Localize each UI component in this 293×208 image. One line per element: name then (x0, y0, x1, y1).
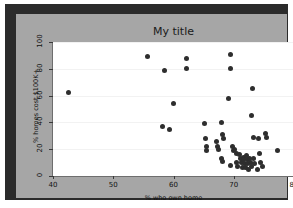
chart-title: My title (53, 25, 293, 39)
y-tick-mark (49, 149, 53, 150)
scatter-point (184, 66, 189, 71)
gridline (53, 42, 293, 43)
y-tick-mark (49, 96, 53, 97)
x-tick-label: 50 (103, 181, 123, 189)
scatter-point (145, 54, 150, 59)
scatter-point (251, 156, 256, 161)
x-tick-mark (113, 176, 114, 179)
y-tick-mark (49, 122, 53, 123)
x-tick-mark (53, 176, 54, 179)
scatter-point (250, 86, 255, 91)
scatter-point (264, 135, 269, 140)
scatter-point (228, 163, 233, 168)
scatter-point (184, 56, 189, 61)
scatter-point (275, 148, 280, 153)
x-tick-mark (234, 176, 235, 179)
scatter-point (228, 66, 233, 71)
scatter-point (171, 101, 176, 106)
y-tick-mark (49, 176, 53, 177)
gridline (53, 149, 293, 150)
y-tick-mark (49, 69, 53, 70)
plot-area (53, 42, 293, 176)
scatter-point (214, 139, 219, 144)
x-tick-label: 80 (284, 181, 293, 189)
figure-canvas: My title 4050607080 020406080100 % who o… (16, 14, 287, 198)
scatter-point (260, 164, 265, 169)
scatter-point (221, 136, 226, 141)
scatter-point (220, 159, 225, 164)
scatter-point (255, 167, 260, 172)
x-tick-mark (174, 176, 175, 179)
screenshot-root: My title 4050607080 020406080100 % who o… (0, 0, 293, 208)
scatter-point (228, 52, 233, 57)
scatter-point (256, 136, 261, 141)
scatter-point (251, 135, 256, 140)
x-axis-label: % who own home (53, 194, 293, 202)
scatter-point (203, 136, 208, 141)
scatter-point (219, 120, 224, 125)
scatter-point (204, 148, 209, 153)
scatter-point (202, 121, 207, 126)
y-tick-mark (49, 42, 53, 43)
scatter-point (249, 113, 254, 118)
scatter-point (216, 147, 221, 152)
gridline (53, 122, 293, 123)
scatter-point (226, 96, 231, 101)
scatter-point (257, 151, 262, 156)
scatter-point (252, 161, 257, 166)
x-tick-label: 60 (164, 181, 184, 189)
x-tick-label: 40 (43, 181, 63, 189)
figure-outer-frame: My title 4050607080 020406080100 % who o… (5, 4, 288, 200)
scatter-point (162, 68, 167, 73)
y-axis-label: % homes cost $100K+ (32, 39, 40, 173)
gridline (53, 69, 293, 70)
scatter-point (160, 124, 165, 129)
scatter-point (167, 127, 172, 132)
gridline (53, 96, 293, 97)
x-tick-label: 70 (224, 181, 244, 189)
